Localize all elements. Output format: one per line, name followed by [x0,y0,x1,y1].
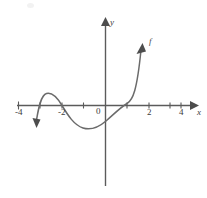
x-tick-label-2: 2 [147,108,152,117]
curve-right-arrow-icon [137,43,147,54]
function-curve-f [37,50,142,129]
x-tick-label--4: -4 [15,108,23,117]
x-tick-label--2: -2 [58,108,66,117]
x-axis-label: x [197,108,201,117]
y-axis-label: y [110,18,114,27]
x-tick-label-0: 0 [96,107,101,116]
curve-label-f: f [149,37,152,46]
y-axis-arrow-icon [101,17,110,26]
function-graph-figure: -4 -2 0 2 4 y x f [0,0,207,198]
graph-canvas [0,0,207,198]
x-tick-label-4: 4 [179,108,184,117]
curve-left-arrow-icon [33,118,41,128]
